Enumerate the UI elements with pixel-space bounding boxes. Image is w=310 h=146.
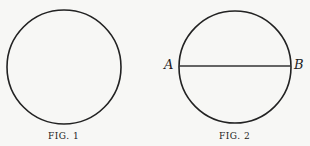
point-label-b: B [294,57,304,72]
diagram-canvas [0,0,310,146]
point-label-a: A [164,57,173,72]
fig2-caption: FIG. 2 [219,131,250,141]
fig1-circle [7,10,121,124]
fig1-caption: FIG. 1 [48,131,79,141]
fig2-circle [179,11,291,123]
